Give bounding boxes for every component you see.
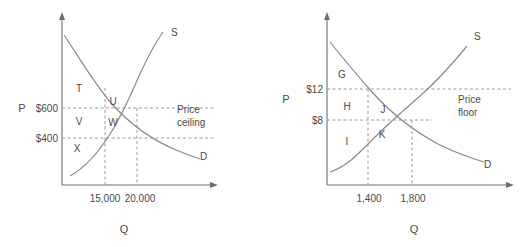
- region-label-x: X: [74, 143, 81, 154]
- region-label-j: J: [381, 104, 386, 115]
- region-label-u: U: [109, 96, 116, 107]
- x-axis: [62, 182, 218, 188]
- price-tick-400: $400: [36, 133, 59, 144]
- region-label-h: H: [343, 101, 350, 112]
- region-label-w: W: [108, 117, 118, 128]
- y-axis-arrow-icon: [324, 12, 330, 20]
- y-axis: [324, 12, 330, 185]
- p-axis-label: P: [18, 102, 25, 114]
- region-label-v: V: [76, 116, 83, 127]
- region-label-i: I: [346, 136, 349, 147]
- x-axis: [327, 182, 514, 188]
- price-ceiling-panel: P Q $600 $400 15,000 20,000 S D T U V W …: [0, 0, 262, 247]
- x-axis-arrow-icon: [210, 182, 218, 188]
- demand-curve: [64, 35, 200, 159]
- price-ceiling-note-line2: ceiling: [177, 117, 205, 128]
- demand-curve-label: D: [200, 151, 207, 162]
- price-ceiling-note-line1: Price: [177, 104, 200, 115]
- figure-root: P Q $600 $400 15,000 20,000 S D T U V W …: [0, 0, 524, 247]
- price-tick-8: $8: [312, 115, 324, 126]
- quantity-tick-20000: 20,000: [125, 193, 156, 204]
- p-axis-label: P: [282, 93, 289, 105]
- price-floor-note-line2: floor: [458, 107, 478, 118]
- supply-curve-label: S: [171, 27, 178, 38]
- q-axis-label: Q: [410, 223, 419, 235]
- quantity-tick-1800: 1,800: [400, 193, 425, 204]
- price-floor-note-line1: Price: [458, 94, 481, 105]
- region-label-t: T: [76, 83, 82, 94]
- supply-curve-label: S: [474, 31, 481, 42]
- quantity-tick-15000: 15,000: [90, 193, 121, 204]
- q-axis-label: Q: [120, 223, 129, 235]
- price-tick-12: $12: [306, 84, 323, 95]
- y-axis-arrow-icon: [59, 12, 65, 20]
- price-tick-600: $600: [36, 103, 59, 114]
- x-axis-arrow-icon: [506, 182, 514, 188]
- y-axis: [59, 12, 65, 185]
- price-floor-panel: P Q $12 $8 1,400 1,800 S D G H I J K Pri…: [262, 0, 524, 247]
- quantity-tick-1400: 1,400: [356, 193, 381, 204]
- region-label-k: K: [379, 129, 386, 140]
- demand-curve-label: D: [484, 159, 491, 170]
- region-label-g: G: [338, 69, 346, 80]
